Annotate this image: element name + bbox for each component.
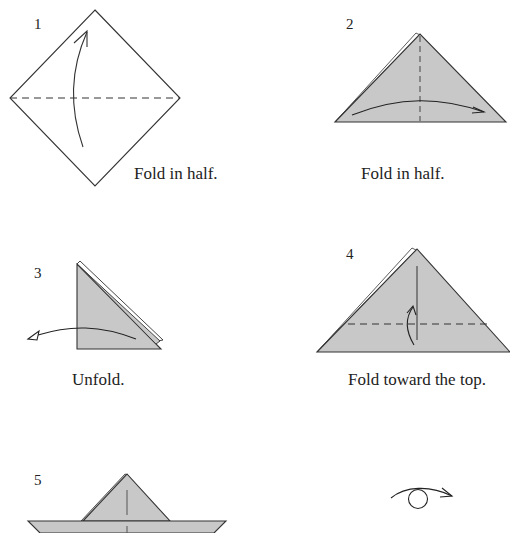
step-1-number: 1 [34, 16, 42, 33]
paper-triangle [317, 249, 510, 352]
step-5-figure [28, 474, 226, 533]
step-5-number: 5 [34, 472, 42, 489]
step-3-number: 3 [34, 265, 42, 282]
step-3-caption: Unfold. [72, 370, 124, 390]
turn-over-symbol [391, 488, 452, 509]
step-3-figure [28, 261, 163, 349]
step-1-figure [10, 10, 180, 186]
origami-diagram [0, 0, 510, 533]
arrow-head-icon [440, 488, 452, 497]
hollow-arrow-head-icon [28, 331, 39, 340]
step-2-number: 2 [346, 16, 354, 33]
step-4-caption: Fold toward the top. [348, 370, 486, 390]
step-1-caption: Fold in half. [134, 164, 218, 184]
step-2-caption: Fold in half. [361, 164, 445, 184]
step-4-figure [317, 248, 510, 352]
step-4-number: 4 [346, 246, 354, 263]
step-2-figure [335, 33, 506, 122]
turn-over-circle-icon [409, 490, 428, 509]
